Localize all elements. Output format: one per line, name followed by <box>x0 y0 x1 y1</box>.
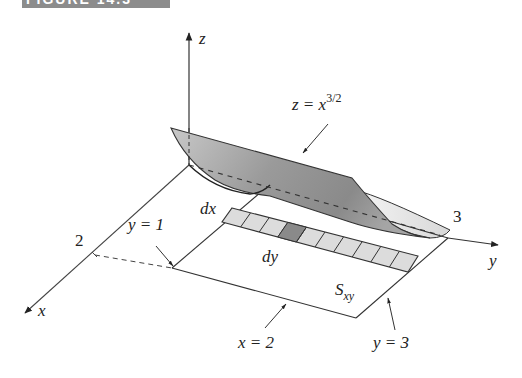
integration-diagram: z y x 2 3 z = x3/2 y = 1 dx dy Sxy x = 2… <box>0 0 522 378</box>
arrow-y3 <box>388 298 395 330</box>
surface-eq-exponent: 3/2 <box>326 91 341 105</box>
arrow-y1 <box>156 246 173 266</box>
dx-label: dx <box>200 199 217 218</box>
x-tick-2: 2 <box>75 231 84 250</box>
region-label-sub: xy <box>343 289 355 303</box>
surface-eq-base: z = x <box>291 95 327 114</box>
z-axis-label: z <box>198 29 206 48</box>
dashed-guide-x2 <box>95 255 172 268</box>
surface-equation-label: z = x3/2 <box>291 91 341 114</box>
y1-label: y = 1 <box>126 215 164 234</box>
x-axis-label: x <box>37 301 46 320</box>
x-axis <box>25 165 189 313</box>
y3-label: y = 3 <box>371 333 409 352</box>
x2-label: x = 2 <box>237 333 275 352</box>
dy-label: dy <box>262 247 279 266</box>
arrow-surface-eq <box>303 124 328 153</box>
arrow-x2 <box>265 304 286 328</box>
y-tick-3: 3 <box>453 207 462 226</box>
y-axis-label: y <box>487 251 497 270</box>
